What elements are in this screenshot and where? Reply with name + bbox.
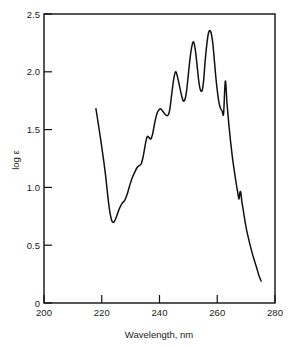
y-tick-label-3: 1.5 [27,124,40,135]
y-tick-label-2: 1.0 [27,182,40,193]
y-tick-label-4: 2.0 [27,66,40,77]
y-tick-labels: 0 0.5 1.0 1.5 2.0 2.5 [27,9,40,309]
x-axis-title: Wavelength, nm [125,329,193,340]
plot-frame [44,14,275,303]
spectrum-plot: 200 220 240 260 280 0 0.5 1.0 1.5 2.0 2.… [0,0,296,349]
x-tick-label-0: 200 [36,307,52,318]
chart-figure: 200 220 240 260 280 0 0.5 1.0 1.5 2.0 2.… [0,0,296,349]
y-tick-label-1: 0.5 [27,240,40,251]
y-axis-ticks [44,14,52,303]
y-tick-label-5: 2.5 [27,9,40,20]
x-tick-label-4: 280 [267,307,283,318]
x-tick-label-3: 260 [209,307,225,318]
y-tick-label-0: 0 [35,298,40,309]
x-tick-label-1: 220 [94,307,110,318]
x-axis-ticks [44,295,275,303]
x-tick-label-2: 240 [152,307,168,318]
spectrum-curve [96,30,261,281]
x-tick-labels: 200 220 240 260 280 [36,307,283,318]
y-axis-title: log ε [10,149,21,169]
